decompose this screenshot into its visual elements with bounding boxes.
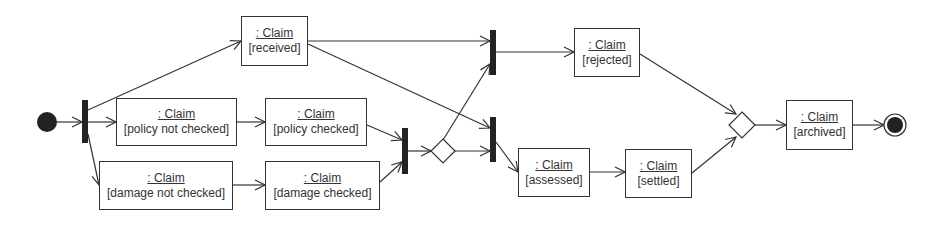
claim-received: : Claim [received] bbox=[241, 16, 308, 66]
fork-bar bbox=[82, 100, 88, 143]
claim-policy-checked: : Claim [policy checked] bbox=[265, 98, 367, 146]
claim-rejected: : Claim [rejected] bbox=[574, 28, 640, 77]
merge-diamond bbox=[729, 112, 755, 138]
claim-settled: : Claim [settled] bbox=[625, 149, 692, 198]
claim-damage-not-checked: : Claim [damage not checked] bbox=[99, 161, 233, 210]
claim-archived: : Claim [archived] bbox=[786, 100, 853, 150]
join-bar-rejected bbox=[490, 30, 496, 75]
claim-damage-checked: : Claim [damage checked] bbox=[265, 161, 380, 210]
decision-diamond bbox=[431, 139, 455, 163]
initial-node bbox=[37, 112, 57, 132]
claim-assessed: : Claim [assessed] bbox=[518, 148, 590, 197]
join-bar-assessed bbox=[490, 117, 496, 162]
join-bar bbox=[402, 128, 408, 174]
claim-policy-not-checked: : Claim [policy not checked] bbox=[116, 98, 237, 146]
